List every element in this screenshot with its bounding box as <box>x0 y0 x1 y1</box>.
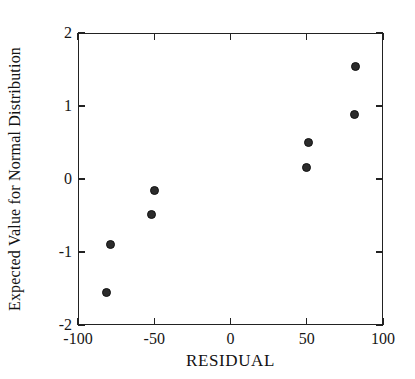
y-tick-label: -1 <box>59 244 72 260</box>
plot-frame <box>78 33 383 325</box>
y-tick-label: -2 <box>59 317 72 333</box>
y-axis-title-wrapper: Expected Value for Normal Distribution <box>0 33 30 325</box>
x-tick-label: 100 <box>371 331 395 347</box>
x-tick-label: -50 <box>144 331 165 347</box>
x-tick-label: 0 <box>227 331 235 347</box>
y-axis-title: Expected Value for Normal Distribution <box>6 47 24 311</box>
x-axis-title: RESIDUAL <box>78 351 383 371</box>
x-tick-label: -100 <box>63 331 92 347</box>
y-tick-label: 0 <box>64 171 72 187</box>
normal-probability-plot: RESIDUAL Expected Value for Normal Distr… <box>0 0 415 379</box>
y-tick-label: 2 <box>64 25 72 41</box>
x-tick-label: 50 <box>299 331 315 347</box>
y-tick-label: 1 <box>64 98 72 114</box>
